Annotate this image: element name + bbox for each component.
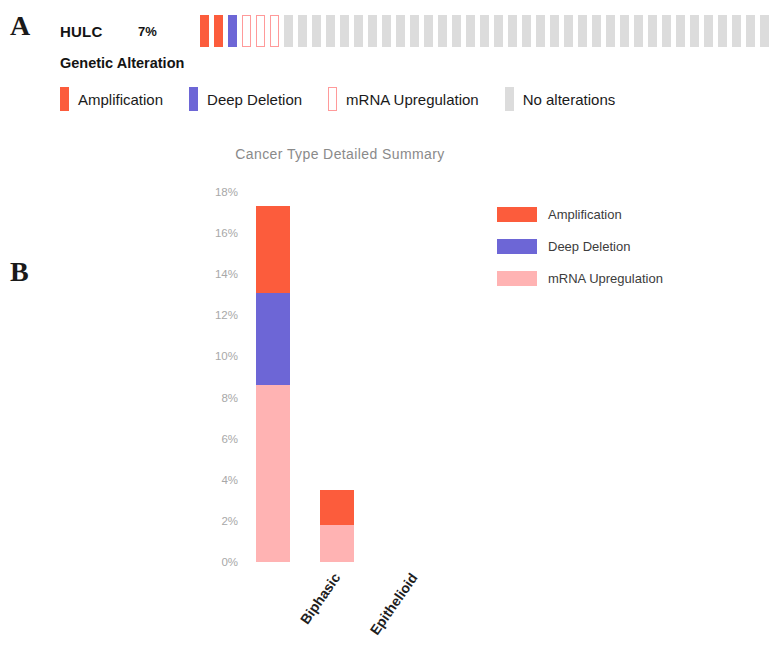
bar-segment-mrna-up[interactable] [320, 525, 354, 562]
oncoprint-cell[interactable] [704, 15, 713, 47]
oncoprint-cell[interactable] [466, 15, 475, 47]
oncoprint-cell[interactable] [256, 15, 265, 47]
oncoprint-cell[interactable] [312, 15, 321, 47]
legend-swatch-del-icon [189, 87, 198, 111]
chart-title: Cancer Type Detailed Summary [190, 146, 490, 162]
oncoprint-cell[interactable] [354, 15, 363, 47]
oncoprint-cell[interactable] [340, 15, 349, 47]
oncoprint-cell[interactable] [634, 15, 643, 47]
y-axis-tick-label: 12% [215, 309, 238, 321]
oncoprint-legend-label: No alterations [523, 91, 616, 108]
oncoprint-legend-item: No alterations [505, 87, 616, 111]
oncoprint-cell[interactable] [438, 15, 447, 47]
oncoprint-cell[interactable] [536, 15, 545, 47]
oncoprint-gene-row: HULC 7% [60, 14, 773, 48]
oncoprint-cell[interactable] [214, 15, 223, 47]
oncoprint-cell[interactable] [494, 15, 503, 47]
oncoprint-cell[interactable] [550, 15, 559, 47]
oncoprint-legend-label: mRNA Upregulation [346, 91, 479, 108]
oncoprint-cell[interactable] [270, 15, 279, 47]
gene-alteration-percent: 7% [138, 24, 200, 39]
oncoprint-cell[interactable] [620, 15, 629, 47]
oncoprint-cell[interactable] [508, 15, 517, 47]
oncoprint-cell[interactable] [410, 15, 419, 47]
chart-legend-item[interactable]: Amplification [497, 198, 663, 230]
oncoprint-cell[interactable] [732, 15, 741, 47]
panel-label-b: B [10, 258, 29, 286]
bar-stack[interactable] [256, 206, 290, 562]
legend-swatch-del-icon [497, 239, 537, 254]
oncoprint-legend-label: Deep Deletion [207, 91, 302, 108]
oncoprint-cell[interactable] [648, 15, 657, 47]
panel-label-a: A [10, 12, 30, 40]
chart-legend: AmplificationDeep DeletionmRNA Upregulat… [497, 198, 663, 294]
oncoprint-cell[interactable] [592, 15, 601, 47]
chart-legend-label: mRNA Upregulation [548, 271, 663, 286]
legend-swatch-mrna-up-icon [497, 271, 537, 286]
oncoprint-cell[interactable] [746, 15, 755, 47]
chart-legend-item[interactable]: Deep Deletion [497, 230, 663, 262]
oncoprint-cell[interactable] [382, 15, 391, 47]
oncoprint-legend-item: Amplification [60, 87, 163, 111]
y-axis-tick-label: 2% [221, 515, 238, 527]
legend-swatch-amp-icon [60, 87, 69, 111]
y-axis-tick-label: 6% [221, 433, 238, 445]
legend-swatch-amp-icon [497, 207, 537, 222]
y-axis-tick-label: 18% [215, 186, 238, 198]
chart-panel: B Cancer Type Detailed Summary Alteratio… [0, 130, 715, 654]
oncoprint-cell[interactable] [452, 15, 461, 47]
oncoprint-cell[interactable] [424, 15, 433, 47]
y-axis-tick-label: 16% [215, 227, 238, 239]
bar-segment-del[interactable] [256, 293, 290, 386]
legend-swatch-mrna-up-icon [328, 87, 337, 111]
oncoprint-panel: A HULC 7% Genetic Alteration Amplificati… [0, 0, 715, 125]
oncoprint-cell[interactable] [606, 15, 615, 47]
oncoprint-legend: AmplificationDeep DeletionmRNA Upregulat… [60, 86, 641, 112]
chart-legend-label: Amplification [548, 207, 622, 222]
chart-legend-label: Deep Deletion [548, 239, 630, 254]
oncoprint-legend-item: mRNA Upregulation [328, 87, 479, 111]
oncoprint-cell[interactable] [228, 15, 237, 47]
x-axis-tick-label: Epithelioid [367, 570, 421, 638]
gene-name-label: HULC [60, 23, 138, 40]
oncoprint-cell[interactable] [760, 15, 769, 47]
oncoprint-cell[interactable] [298, 15, 307, 47]
oncoprint-cell[interactable] [662, 15, 671, 47]
bar-stack[interactable] [320, 490, 354, 562]
oncoprint-cell[interactable] [326, 15, 335, 47]
bar-segment-amp[interactable] [320, 490, 354, 525]
oncoprint-legend-label: Amplification [78, 91, 163, 108]
oncoprint-cell[interactable] [368, 15, 377, 47]
oncoprint-cell[interactable] [200, 15, 209, 47]
y-axis-tick-label: 8% [221, 392, 238, 404]
y-axis-tick-label: 10% [215, 350, 238, 362]
x-axis-tick-label: Biphasic [297, 570, 344, 627]
oncoprint-cell[interactable] [396, 15, 405, 47]
y-axis-tick-label: 4% [221, 474, 238, 486]
oncoprint-cell[interactable] [718, 15, 727, 47]
oncoprint-cell[interactable] [522, 15, 531, 47]
oncoprint-cell[interactable] [690, 15, 699, 47]
genetic-alteration-title: Genetic Alteration [60, 55, 184, 71]
y-axis-tick-label: 0% [221, 556, 238, 568]
oncoprint-cell[interactable] [564, 15, 573, 47]
chart-plot-area: Alteration Frequency 0%2%4%6%8%10%12%14%… [248, 192, 478, 562]
bar-segment-amp[interactable] [256, 206, 290, 292]
oncoprint-cell[interactable] [578, 15, 587, 47]
y-axis-tick-label: 14% [215, 268, 238, 280]
bar-segment-mrna-up[interactable] [256, 385, 290, 562]
oncoprint-cell[interactable] [676, 15, 685, 47]
oncoprint-cell[interactable] [480, 15, 489, 47]
oncoprint-sample-track[interactable] [200, 14, 773, 48]
oncoprint-legend-item: Deep Deletion [189, 87, 302, 111]
oncoprint-cell[interactable] [284, 15, 293, 47]
legend-swatch-none-icon [505, 87, 514, 111]
chart-legend-item[interactable]: mRNA Upregulation [497, 262, 663, 294]
oncoprint-cell[interactable] [242, 15, 251, 47]
